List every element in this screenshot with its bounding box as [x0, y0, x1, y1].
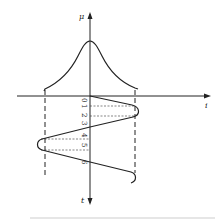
svg-text:2: 2 [80, 113, 88, 117]
arrow-up-icon [88, 12, 93, 19]
time-ticks: 0 1 2 3 4 5 6 [80, 98, 88, 165]
axis-label-mu: μ [79, 12, 84, 21]
svg-text:0: 0 [80, 98, 88, 102]
axis-label-i: i [205, 101, 208, 110]
current-waveform [38, 96, 139, 183]
svg-text:4: 4 [80, 133, 88, 138]
arrow-down-icon [88, 198, 93, 205]
axis-label-t: t [81, 196, 85, 205]
bell-curve [44, 41, 138, 91]
svg-text:5: 5 [80, 143, 88, 147]
arrow-right-icon [204, 94, 211, 99]
svg-text:6: 6 [80, 160, 88, 165]
svg-text:1: 1 [80, 104, 88, 108]
diagram-figure: μ i t 0 1 2 3 4 5 6 [0, 0, 222, 223]
caption-faint [30, 217, 215, 219]
axes [17, 14, 208, 203]
svg-text:3: 3 [80, 121, 88, 125]
